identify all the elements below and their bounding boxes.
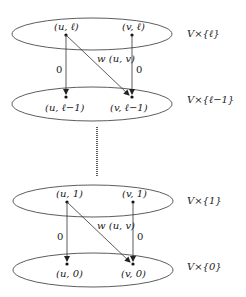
layered-graph-diagram: (u, ℓ) (v, ℓ) (u, ℓ−1) (v, ℓ−1) 0 0 w (u… — [0, 0, 246, 297]
label-u-bottom: (u, 0) — [56, 268, 83, 279]
edge-diagonal — [66, 35, 129, 95]
weight-v-vertical: 0 — [136, 64, 142, 75]
weight-diagonal-lower: w (u, v) — [97, 220, 135, 231]
set-label-bottom: V×{0} — [187, 261, 222, 272]
set-label-third: V×{1} — [187, 195, 222, 206]
label-u-second: (u, ℓ−1) — [45, 102, 85, 113]
node-u-bottom — [65, 262, 68, 265]
weight-u-vertical: 0 — [56, 64, 62, 75]
label-u-third: (u, 1) — [56, 188, 83, 199]
label-u-top: (u, ℓ) — [54, 21, 79, 32]
weight-v-vertical-lower: 0 — [137, 231, 143, 242]
node-v-bottom — [131, 262, 134, 265]
layer-ellipse-second — [12, 87, 172, 121]
layer-ellipse-third — [13, 185, 173, 217]
label-v-bottom: (v, 0) — [121, 268, 146, 279]
label-v-third: (v, 1) — [122, 188, 147, 199]
set-label-second: V×{ℓ−1} — [187, 94, 234, 105]
node-u-second — [64, 95, 67, 98]
weight-diagonal: w (u, v) — [97, 53, 135, 64]
upper-block: (u, ℓ) (v, ℓ) (u, ℓ−1) (v, ℓ−1) 0 0 w (u… — [12, 18, 234, 121]
set-label-top: V×{ℓ} — [187, 28, 220, 39]
layer-ellipse-top — [12, 18, 172, 50]
layer-ellipse-bottom — [13, 253, 173, 287]
label-v-top: (v, ℓ) — [122, 21, 145, 32]
lower-block: (u, 1) (v, 1) (u, 0) (v, 0) 0 0 w (u, v)… — [13, 185, 222, 287]
label-v-second: (v, ℓ−1) — [110, 102, 148, 113]
weight-u-vertical-lower: 0 — [57, 231, 63, 242]
node-v-second — [130, 95, 133, 98]
